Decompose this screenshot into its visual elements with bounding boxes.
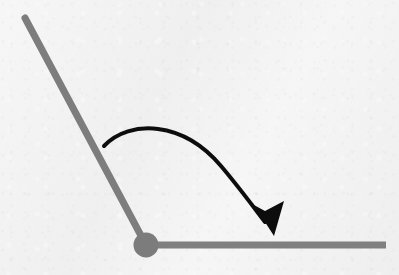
diagram-vector-layer xyxy=(0,0,399,275)
pivot-joint xyxy=(134,233,159,258)
figure-canvas xyxy=(0,0,399,275)
rotation-arrow-head xyxy=(254,201,284,236)
